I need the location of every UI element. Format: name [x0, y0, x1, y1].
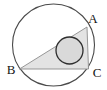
- geometry-figure: A B C: [0, 0, 107, 90]
- geometry-diagram-svg: A B C: [0, 0, 107, 90]
- vertex-label-c: C: [93, 65, 102, 80]
- inner-circle: [56, 37, 83, 64]
- vertex-label-b: B: [7, 62, 16, 77]
- vertex-label-a: A: [88, 11, 98, 26]
